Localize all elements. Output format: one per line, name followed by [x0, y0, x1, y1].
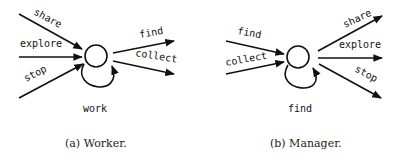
worker-label-share: share: [32, 6, 64, 30]
worker-label-stop: stop: [22, 63, 48, 84]
worker-state-node: [85, 45, 107, 67]
worker-label-self-loop: work: [83, 103, 107, 114]
manager-label-share: share: [341, 7, 373, 30]
manager-diagram: find collect share explore stop find: [224, 7, 382, 114]
worker-edge-collect: [113, 61, 174, 74]
worker-label-explore: explore: [20, 38, 62, 49]
worker-label-collect: collect: [135, 47, 178, 64]
caption-worker: (a) Worker.: [65, 137, 127, 150]
worker-label-find: find: [138, 25, 164, 40]
state-diagrams: share explore stop find collect work (a)…: [0, 0, 397, 158]
manager-label-collect: collect: [224, 50, 267, 68]
manager-label-stop: stop: [353, 63, 379, 84]
manager-state-node: [287, 46, 309, 68]
manager-label-explore: explore: [339, 39, 381, 50]
caption-manager: (b) Manager.: [270, 137, 342, 150]
worker-diagram: share explore stop find collect work: [19, 6, 178, 114]
manager-label-self-loop: find: [288, 103, 312, 114]
manager-label-find: find: [237, 25, 263, 40]
